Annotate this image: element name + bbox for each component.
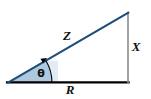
triangle-diagram-figure: Z X R θ [0,0,151,99]
triangle-diagram-svg [0,0,151,99]
hypotenuse-label: Z [63,29,71,42]
base-side-label: R [66,83,75,96]
hypotenuse-line [8,13,128,83]
vertical-side-label: X [132,40,141,53]
angle-theta-label: θ [37,68,45,79]
